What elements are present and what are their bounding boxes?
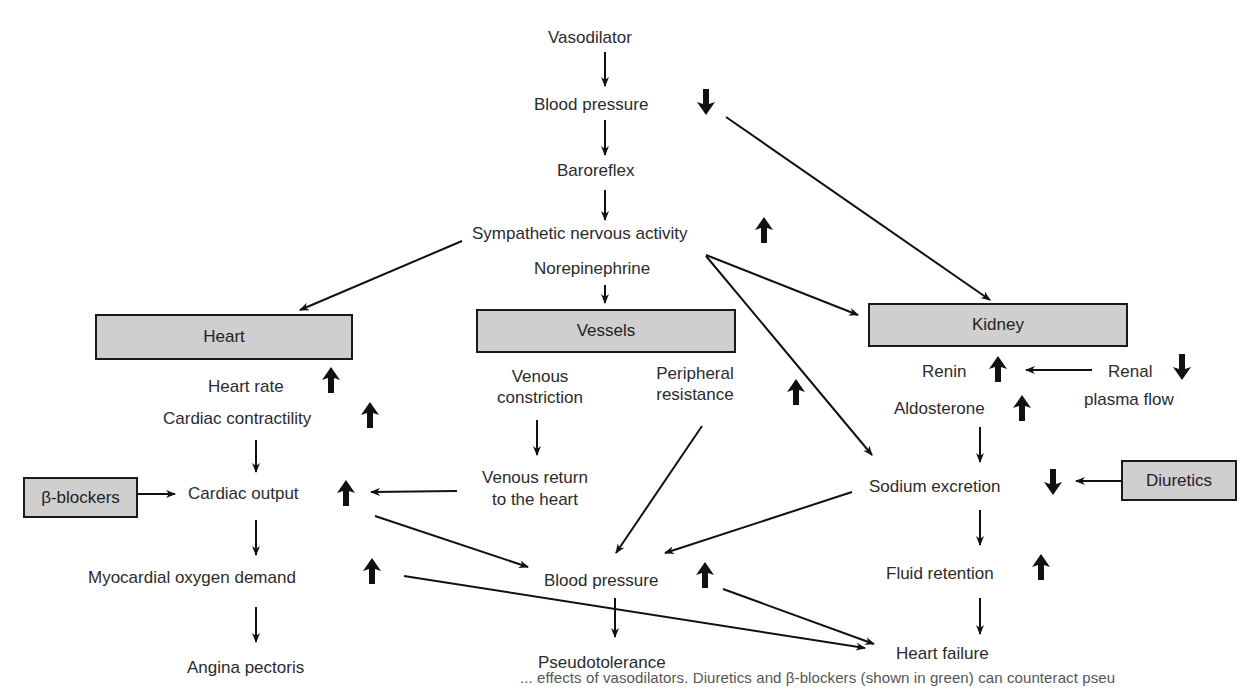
node-cardiac-contractility: Cardiac contractility xyxy=(163,408,311,429)
node-baroreflex: Baroreflex xyxy=(557,160,634,181)
arrow-output-to-bp xyxy=(375,516,528,567)
node-sodium-excretion: Sodium excretion xyxy=(869,476,1000,497)
contractility-increase-indicator-icon xyxy=(361,402,379,428)
node-renin: Renin xyxy=(922,361,966,382)
arrow-bp-to-heartfailure xyxy=(723,589,874,644)
node-venous-constriction-line1: Venous xyxy=(500,366,580,387)
node-myocardial-oxygen-demand: Myocardial oxygen demand xyxy=(88,567,296,588)
figure-caption: ... effects of vasodilators. Diuretics a… xyxy=(520,669,1115,686)
node-peripheral-resistance-line1: Peripheral xyxy=(645,363,745,384)
myocardial-increase-indicator-icon xyxy=(363,558,381,584)
box-beta-blockers: β-blockers xyxy=(23,477,138,518)
box-kidney: Kidney xyxy=(868,303,1128,347)
node-sympathetic-activity: Sympathetic nervous activity xyxy=(472,223,687,244)
node-blood-pressure-top: Blood pressure xyxy=(534,94,648,115)
fluid-increase-indicator-icon xyxy=(1032,554,1050,580)
sodium-decrease-indicator-icon xyxy=(1044,469,1062,495)
node-vasodilator: Vasodilator xyxy=(548,27,632,48)
output-increase-indicator-icon xyxy=(337,480,355,506)
heart-rate-increase-indicator-icon xyxy=(322,367,340,393)
node-aldosterone: Aldosterone xyxy=(894,398,985,419)
node-norepinephrine: Norepinephrine xyxy=(534,258,650,279)
aldosterone-increase-indicator-icon xyxy=(1013,395,1031,421)
node-venous-constriction-line2: constriction xyxy=(482,387,598,408)
box-heart: Heart xyxy=(95,314,353,360)
arrow-sympathetic-to-sodium xyxy=(706,256,872,455)
node-angina-pectoris: Angina pectoris xyxy=(187,657,304,678)
renin-increase-indicator-icon xyxy=(989,356,1007,382)
arrow-bp-to-kidney xyxy=(726,117,990,300)
node-fluid-retention: Fluid retention xyxy=(886,563,994,584)
node-venous-return-line2: to the heart xyxy=(465,489,605,510)
box-vessels: Vessels xyxy=(476,309,736,353)
renal-flow-decrease-indicator-icon xyxy=(1173,354,1191,380)
sympathetic-increase-indicator-icon xyxy=(755,217,773,243)
node-blood-pressure-mid: Blood pressure xyxy=(544,570,658,591)
node-heart-rate: Heart rate xyxy=(208,376,284,397)
arrow-venousreturn-to-output xyxy=(371,491,457,492)
node-heart-failure: Heart failure xyxy=(896,643,989,664)
arrow-resistance-to-bp xyxy=(616,426,702,553)
resistance-increase-indicator-icon xyxy=(787,379,805,405)
arrow-sympathetic-to-heart xyxy=(300,241,462,310)
node-cardiac-output: Cardiac output xyxy=(188,483,299,504)
arrow-sympathetic-to-kidney xyxy=(706,255,858,315)
node-peripheral-resistance-line2: resistance xyxy=(645,384,745,405)
bp-mid-increase-indicator-icon xyxy=(696,562,714,588)
bp-decrease-indicator-icon xyxy=(697,89,715,115)
node-renal-line2: plasma flow xyxy=(1084,389,1174,410)
box-diuretics: Diuretics xyxy=(1121,460,1237,501)
node-renal-line1: Renal xyxy=(1108,361,1152,382)
arrow-sodium-to-bp xyxy=(665,492,852,553)
node-venous-return-line1: Venous return xyxy=(465,467,605,488)
